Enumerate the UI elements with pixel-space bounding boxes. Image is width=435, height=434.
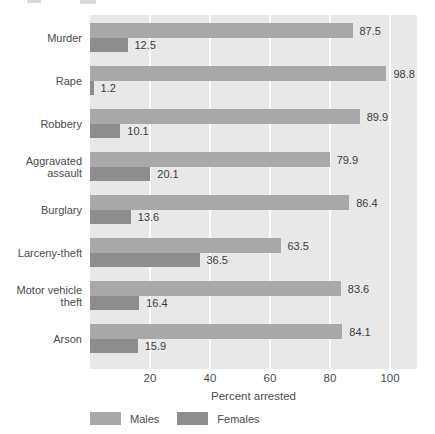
legend-label-males: Males [130,413,159,425]
females-bar [90,339,138,353]
bar-group: 79.920.1 [90,152,417,181]
males-bar [90,152,330,167]
bar-row-females: 36.5 [90,253,417,267]
page-crop-artifact [27,0,41,3]
legend-item-males: Males [90,412,159,425]
males-bar [90,23,353,38]
category-label: Aggravated assault [0,152,82,181]
value-label: 20.1 [157,168,178,180]
bar-row-males: 87.5 [90,23,417,38]
value-label: 86.4 [356,197,377,209]
value-label: 63.5 [288,240,309,252]
value-label: 1.2 [101,82,116,94]
x-tick-label: 100 [380,372,399,384]
x-tick-label: 60 [264,372,277,384]
bar-groups: 87.512.598.81.289.910.179.920.186.413.66… [90,23,417,353]
bar-row-males: 83.6 [90,281,417,296]
bar-group: 98.81.2 [90,66,417,95]
bar-row-females: 16.4 [90,296,417,310]
legend: Males Females [90,412,260,425]
x-axis: 20406080100 [0,372,435,388]
legend-label-females: Females [217,413,259,425]
legend-item-females: Females [177,412,259,425]
category-label: Robbery [0,109,82,138]
category-label: Larceny-theft [0,238,82,267]
bar-row-females: 20.1 [90,167,417,181]
value-label: 79.9 [337,154,358,166]
value-label: 10.1 [127,125,148,137]
males-bar [90,195,349,210]
value-label: 83.6 [348,283,369,295]
males-bar [90,281,341,296]
bar-row-males: 79.9 [90,152,417,167]
males-bar [90,109,360,124]
bar-row-males: 63.5 [90,238,417,253]
bar-group: 83.616.4 [90,281,417,310]
category-label: Burglary [0,195,82,224]
category-label: Motor vehicle theft [0,281,82,310]
value-label: 16.4 [146,297,167,309]
value-label: 13.6 [138,211,159,223]
bar-row-females: 1.2 [90,81,417,95]
males-swatch-icon [90,412,121,425]
bar-row-males: 89.9 [90,109,417,124]
bar-row-females: 13.6 [90,210,417,224]
value-label: 36.5 [207,254,228,266]
males-bar [90,238,281,253]
value-label: 98.8 [393,68,414,80]
bar-group: 84.115.9 [90,324,417,353]
value-label: 15.9 [145,340,166,352]
plot-area: 87.512.598.81.289.910.179.920.186.413.66… [90,15,417,369]
females-swatch-icon [177,412,208,425]
category-label: Arson [0,324,82,353]
bar-group: 63.536.5 [90,238,417,267]
males-bar [90,324,342,339]
bar-group: 86.413.6 [90,195,417,224]
value-label: 12.5 [135,39,156,51]
bar-row-males: 98.8 [90,66,417,81]
males-bar [90,66,386,81]
x-tick-label: 40 [204,372,217,384]
bar-row-females: 15.9 [90,339,417,353]
females-bar [90,124,120,138]
bar-group: 89.910.1 [90,109,417,138]
category-label: Murder [0,23,82,52]
females-bar [90,210,131,224]
females-bar [90,167,150,181]
bar-chart: MurderRapeRobberyAggravated assaultBurgl… [0,15,417,369]
page-crop-artifact [80,0,96,4]
bar-row-males: 84.1 [90,324,417,339]
bar-row-females: 10.1 [90,124,417,138]
bar-group: 87.512.5 [90,23,417,52]
value-label: 89.9 [367,111,388,123]
females-bar [90,81,94,95]
x-tick-label: 20 [144,372,157,384]
value-label: 84.1 [349,326,370,338]
bar-row-females: 12.5 [90,38,417,52]
x-tick-label: 80 [324,372,337,384]
females-bar [90,38,128,52]
females-bar [90,253,200,267]
category-axis: MurderRapeRobberyAggravated assaultBurgl… [0,15,90,369]
females-bar [90,296,139,310]
value-label: 87.5 [360,25,381,37]
bar-row-males: 86.4 [90,195,417,210]
x-axis-title: Percent arrested [90,390,417,402]
category-label: Rape [0,66,82,95]
